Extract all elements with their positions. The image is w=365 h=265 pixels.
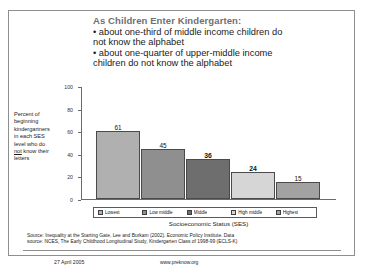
y-tick-label: 0 <box>70 197 73 203</box>
y-tick-mark: 60 <box>78 132 81 133</box>
legend-swatch-icon <box>276 210 281 215</box>
y-tick-mark: 20 <box>78 177 81 178</box>
legend-entry[interactable]: High middle <box>227 210 271 215</box>
y-caption-line-2: beginning <box>14 118 76 125</box>
y-tick-mark: 80 <box>78 110 81 111</box>
y-caption-emphasis: not <box>14 148 22 154</box>
bar-value-label: 15 <box>277 175 319 182</box>
x-axis-line <box>81 199 336 200</box>
legend-entry[interactable]: Low middle <box>138 210 182 215</box>
page-title: As Children Enter Kindergarten: <box>93 15 349 26</box>
y-tick-mark: 0 <box>78 200 81 201</box>
legend-label: Middle <box>194 210 208 215</box>
bar-value-label: 36 <box>187 152 229 159</box>
legend-label: High middle <box>238 210 262 215</box>
bullet-line-2: not know the alphabet <box>93 37 349 48</box>
legend-entry[interactable]: Lowest <box>94 210 138 215</box>
bullet-line-1: • about one-third of middle income child… <box>93 27 349 38</box>
legend-entry[interactable]: Middle <box>183 210 227 215</box>
footer-divider <box>23 250 341 251</box>
bar-rect[interactable]: 36 <box>186 159 230 199</box>
y-tick-label: 60 <box>67 129 73 135</box>
legend-swatch-icon <box>231 210 236 215</box>
bar-value-label: 61 <box>97 124 139 131</box>
bullet-line-4: children do not know the alphabet <box>93 58 349 69</box>
footer-date: 27 April 2005 <box>54 259 84 265</box>
y-caption-line-5: level who do <box>14 141 76 148</box>
legend-label: Highest <box>283 210 299 215</box>
source-citation: Source: Inequality at the Starting Gate,… <box>27 233 337 245</box>
y-tick-label: 80 <box>67 107 73 113</box>
legend-entry[interactable]: Highest <box>272 210 316 215</box>
bar-series: 6145362415 <box>82 87 336 199</box>
bar-value-label: 24 <box>232 165 274 172</box>
y-tick-mark: 100 <box>78 87 81 88</box>
legend-swatch-icon <box>142 210 147 215</box>
plot-area: 100806040200 6145362415 <box>81 87 336 200</box>
footer-url: www.preknow.org <box>160 260 198 265</box>
bar-rect[interactable]: 15 <box>276 182 320 199</box>
y-tick-label: 20 <box>67 174 73 180</box>
bar-rect[interactable]: 45 <box>141 149 185 199</box>
legend-label: Low middle <box>149 210 172 215</box>
bar-rect[interactable]: 61 <box>96 131 140 199</box>
bar-value-label: 45 <box>142 142 184 149</box>
x-axis-title: Socioeconomic Status (SES) <box>81 220 336 227</box>
slide-canvas: As Children Enter Kindergarten: • about … <box>8 10 355 256</box>
bullet-line-3: • about one-quarter of upper-middle inco… <box>93 48 349 59</box>
y-tick-label: 100 <box>64 84 73 90</box>
chart-legend: LowestLow middleMiddleHigh middleHighest <box>93 207 317 218</box>
y-tick-mark: 40 <box>78 155 81 156</box>
legend-label: Lowest <box>105 210 120 215</box>
source-line-2: source: NCES, The Early Childhood Longit… <box>27 239 337 245</box>
legend-swatch-icon <box>98 210 103 215</box>
headline-block: As Children Enter Kindergarten: • about … <box>93 15 349 69</box>
y-tick-label: 40 <box>67 152 73 158</box>
bar-rect[interactable]: 24 <box>231 172 275 199</box>
y-caption-line-6-rest: know their <box>22 148 49 154</box>
legend-swatch-icon <box>187 210 192 215</box>
